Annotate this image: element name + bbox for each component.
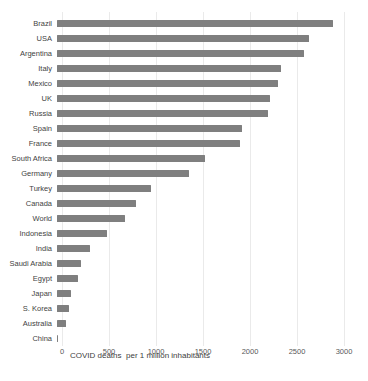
bar-track [57,290,344,297]
category-label: Egypt [0,275,57,283]
bar-row: Egypt [0,271,344,286]
bar-row: Brazil [0,16,344,31]
bar-row: Japan [0,286,344,301]
bar-track [57,230,344,237]
bar-row: India [0,241,344,256]
bar-row: World [0,211,344,226]
bar-track [57,80,344,87]
bar [57,50,304,57]
bar [57,260,81,267]
bar [57,110,268,117]
category-label: France [0,140,57,148]
x-tick-label: 0 [60,348,64,356]
x-tick-label: 2500 [289,348,306,356]
bar-track [57,335,344,342]
bar [57,305,69,312]
bar-row: Germany [0,166,344,181]
bar [57,200,136,207]
bar [57,230,107,237]
bar [57,320,66,327]
bar-track [57,20,344,27]
category-label: Brazil [0,20,57,28]
bar [57,185,151,192]
bar [57,290,71,297]
bar-track [57,170,344,177]
bar-track [57,320,344,327]
bar-row: UK [0,91,344,106]
category-label: Turkey [0,185,57,193]
category-label: S. Korea [0,305,57,313]
category-label: Germany [0,170,57,178]
category-label: South Africa [0,155,57,163]
bar-track [57,275,344,282]
bar-track [57,65,344,72]
bar-row: Australia [0,316,344,331]
bar-rows: BrazilUSAArgentinaItalyMexicoUKRussiaSpa… [0,16,344,346]
bar [57,140,240,147]
bar-row: Mexico [0,76,344,91]
category-label: Saudi Arabia [0,260,57,268]
category-label: Canada [0,200,57,208]
bar-row: Saudi Arabia [0,256,344,271]
category-label: Australia [0,320,57,328]
bar [57,245,90,252]
bar-row: USA [0,31,344,46]
bar-track [57,260,344,267]
category-label: Spain [0,125,57,133]
category-label: China [0,335,57,343]
category-label: Mexico [0,80,57,88]
bar-track [57,185,344,192]
bar-track [57,110,344,117]
category-label: Japan [0,290,57,298]
bar-track [57,245,344,252]
covid-deaths-bar-chart: BrazilUSAArgentinaItalyMexicoUKRussiaSpa… [0,0,368,381]
bar-track [57,50,344,57]
bar-track [57,140,344,147]
bar-row: Russia [0,106,344,121]
category-label: Italy [0,65,57,73]
x-axis-title: COVID deaths per 1 million inhabitants [70,352,210,360]
bar [57,35,309,42]
bar-row: France [0,136,344,151]
bar [57,20,333,27]
category-label: UK [0,95,57,103]
x-tick-label: 2000 [242,348,259,356]
bar-row: Argentina [0,46,344,61]
bar-row: Indonesia [0,226,344,241]
category-label: Indonesia [0,230,57,238]
bar-track [57,215,344,222]
x-tick-label: 3000 [336,348,353,356]
bar [57,125,242,132]
bar-track [57,200,344,207]
gridline [344,12,345,346]
bar-row: Italy [0,61,344,76]
category-label: India [0,245,57,253]
bar [57,80,278,87]
bar-track [57,155,344,162]
bar [57,275,78,282]
category-label: USA [0,35,57,43]
bar [57,95,270,102]
bar [57,215,125,222]
bar-row: South Africa [0,151,344,166]
bar-row: Turkey [0,181,344,196]
bar-row: S. Korea [0,301,344,316]
bar [57,170,189,177]
bar-track [57,125,344,132]
category-label: World [0,215,57,223]
bar-track [57,35,344,42]
bar-track [57,95,344,102]
bar-track [57,305,344,312]
bar-row: China [0,331,344,346]
bar-row: Canada [0,196,344,211]
bar [57,65,281,72]
category-label: Russia [0,110,57,118]
bar [57,155,205,162]
category-label: Argentina [0,50,57,58]
bar-row: Spain [0,121,344,136]
